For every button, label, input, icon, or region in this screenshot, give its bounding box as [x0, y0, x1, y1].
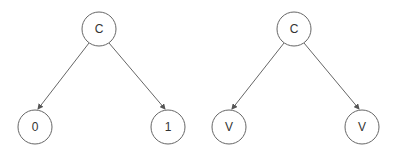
node-label: 1: [165, 120, 172, 134]
edge-c-to-0: [38, 43, 89, 109]
node-child-left: V: [212, 110, 246, 144]
edge-c-to-1: [109, 43, 165, 109]
edge-c-to-v-right: [304, 43, 359, 109]
node-root: C: [277, 12, 311, 46]
node-child-right: 1: [151, 110, 185, 144]
node-label: 0: [32, 120, 39, 134]
node-label: V: [225, 120, 233, 134]
tree-left: C 0 1: [18, 12, 185, 144]
node-label: C: [290, 22, 299, 36]
node-label: C: [95, 22, 104, 36]
node-root: C: [82, 12, 116, 46]
diagram-canvas: C 0 1 C V V: [0, 0, 397, 152]
edge-c-to-v-left: [232, 43, 284, 109]
tree-right: C V V: [212, 12, 379, 144]
node-child-left: 0: [18, 110, 52, 144]
node-child-right: V: [345, 110, 379, 144]
node-label: V: [358, 120, 366, 134]
tree-diagrams: C 0 1 C V V: [0, 0, 397, 152]
